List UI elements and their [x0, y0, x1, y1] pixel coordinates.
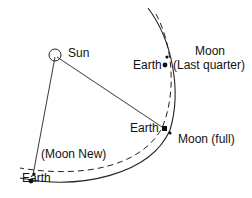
- moon-full-label: Moon (full): [178, 132, 235, 146]
- earth-new-label: Earth: [22, 171, 51, 185]
- moon-new-label: (Moon New): [41, 147, 106, 161]
- earth-full-label: Earth: [130, 121, 159, 135]
- moon-last-quarter-dot: [165, 55, 168, 58]
- earth-full-square: [162, 126, 167, 131]
- orbit-diagram: [0, 0, 252, 198]
- sun-label: Sun: [68, 46, 89, 60]
- earth-last-quarter-label: Earth: [133, 58, 162, 72]
- moon-full-dot: [168, 131, 171, 134]
- earth-last-quarter-dot: [163, 63, 168, 68]
- moon-last-quarter-sublabel: (Last quarter): [173, 58, 245, 72]
- moon-last-quarter-label: Moon: [195, 44, 225, 58]
